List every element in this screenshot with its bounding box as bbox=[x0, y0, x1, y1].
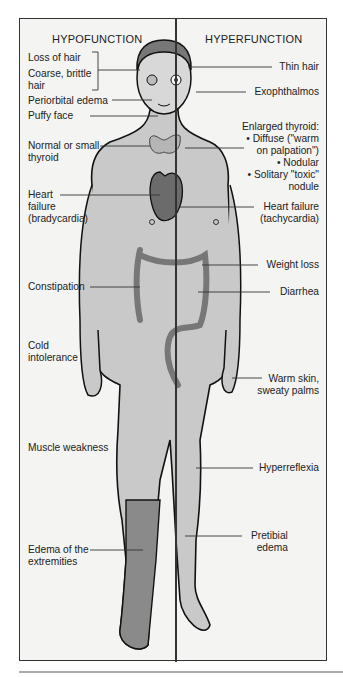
label-warm-skin: Warm skin, sweaty palms bbox=[257, 373, 319, 397]
label-constipation: Constipation bbox=[28, 281, 85, 293]
label-heart-failure-brady: Heart failure (bradycardia) bbox=[28, 189, 88, 225]
label-weight-loss: Weight loss bbox=[267, 259, 319, 271]
label-enlarged-thyroid: Enlarged thyroid: • Diffuse ("warm on pa… bbox=[242, 121, 319, 193]
bottom-rule bbox=[19, 671, 343, 673]
label-pretibial-edema: Pretibial edema bbox=[251, 530, 288, 554]
label-edema-extremities: Edema of the extremities bbox=[28, 544, 89, 568]
heading-hypofunction: HYPOFUNCTION bbox=[52, 33, 142, 45]
label-periorbital-edema: Periorbital edema bbox=[28, 95, 108, 107]
head bbox=[137, 40, 191, 114]
label-muscle-weakness: Muscle weakness bbox=[28, 442, 108, 454]
label-thin-hair: Thin hair bbox=[279, 61, 319, 73]
label-exophthalmos: Exophthalmos bbox=[254, 86, 319, 98]
label-coarse-hair: Coarse, brittle hair bbox=[28, 68, 91, 92]
edema-leg bbox=[120, 500, 160, 649]
label-hyperreflexia: Hyperreflexia bbox=[259, 462, 319, 474]
label-cold-intolerance: Cold intolerance bbox=[28, 340, 78, 364]
heading-hyperfunction: HYPERFUNCTION bbox=[205, 33, 302, 45]
label-puffy-face: Puffy face bbox=[28, 110, 73, 122]
center-divider bbox=[175, 18, 177, 662]
label-small-thyroid: Normal or small thyroid bbox=[28, 140, 99, 164]
label-loss-of-hair: Loss of hair bbox=[28, 52, 81, 64]
label-heart-failure-tachy: Heart failure (tachycardia) bbox=[260, 201, 319, 225]
label-diarrhea: Diarrhea bbox=[280, 286, 319, 298]
